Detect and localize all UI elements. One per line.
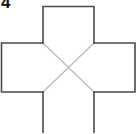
diagonal-lines: [43, 43, 94, 92]
cross-shape-diagram: [0, 0, 136, 133]
top-arm-edge: [43, 7, 94, 44]
left-arm-edge: [2, 43, 44, 92]
right-arm-edge: [94, 43, 135, 92]
cross-outline: [2, 7, 136, 134]
